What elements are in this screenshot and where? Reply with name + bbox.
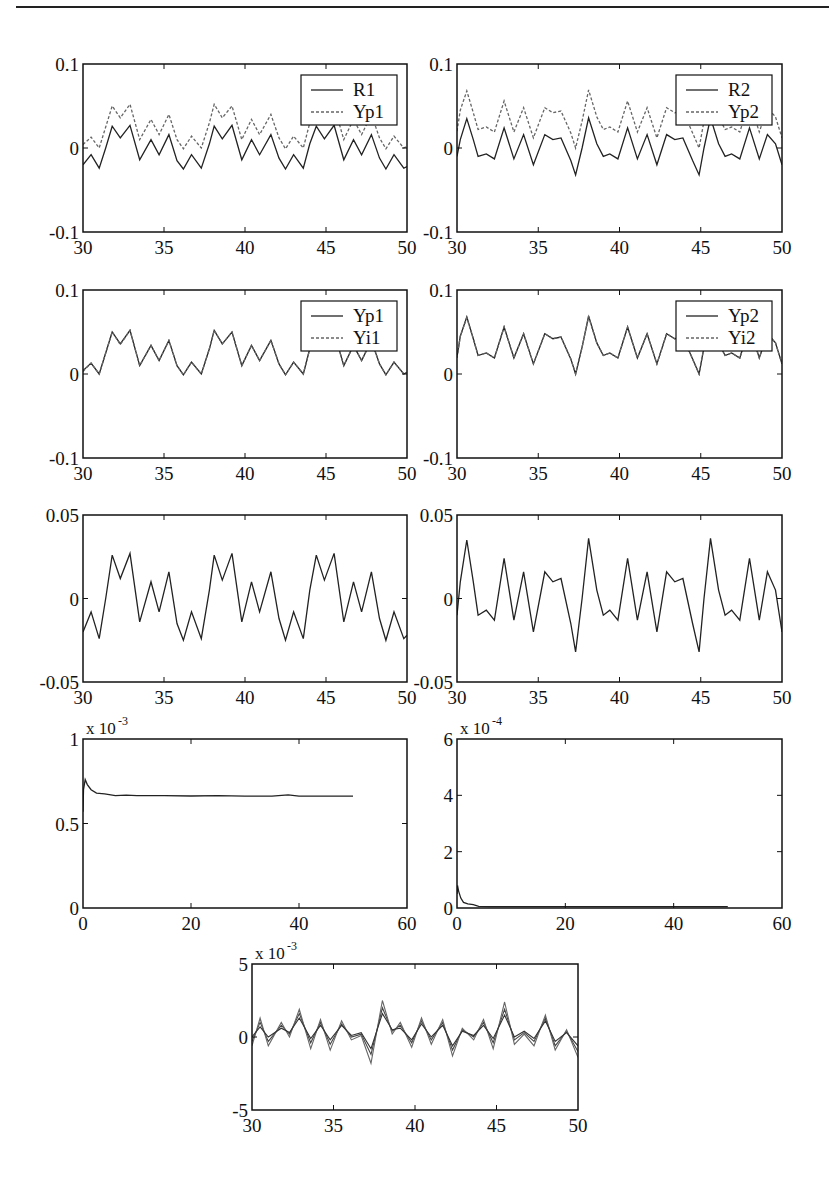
y-exponent-label: x 10 bbox=[460, 719, 490, 738]
x-tick-label: 35 bbox=[324, 1115, 343, 1136]
panel-7: 020406010.50x 10-3 bbox=[55, 714, 416, 934]
y-tick-label: 5 bbox=[239, 954, 249, 975]
y-tick-label: -0.05 bbox=[39, 672, 79, 693]
x-tick-label: 35 bbox=[529, 237, 548, 258]
x-tick-label: 50 bbox=[773, 463, 792, 484]
x-tick-label: 50 bbox=[773, 237, 792, 258]
x-tick-label: 40 bbox=[406, 1115, 425, 1136]
y-tick-label: 0 bbox=[444, 364, 454, 385]
x-tick-label: 60 bbox=[398, 913, 417, 934]
x-tick-label: 45 bbox=[487, 1115, 506, 1136]
series-line-cost2 bbox=[457, 886, 728, 907]
legend: Yp1Yi1 bbox=[301, 301, 397, 351]
x-tick-label: 40 bbox=[236, 237, 255, 258]
series-line-w_b bbox=[252, 1001, 578, 1064]
y-tick-label: -0.05 bbox=[413, 672, 453, 693]
plot-lines bbox=[83, 553, 407, 640]
legend: R1Yp1 bbox=[301, 75, 397, 125]
legend-label: Yi2 bbox=[728, 327, 755, 348]
series-line-e2 bbox=[457, 538, 782, 652]
y-tick-label: 0 bbox=[70, 589, 80, 610]
x-tick-label: 45 bbox=[691, 237, 710, 258]
x-tick-label: 35 bbox=[155, 463, 174, 484]
plot-lines bbox=[83, 780, 353, 812]
y-tick-label: 0.1 bbox=[429, 54, 453, 75]
panel-8: 02040606420x 10-4 bbox=[444, 714, 792, 934]
x-tick-label: 40 bbox=[290, 913, 309, 934]
axes-frame bbox=[457, 739, 782, 908]
y-tick-label: 0.1 bbox=[429, 280, 453, 301]
y-tick-label: 0 bbox=[70, 898, 80, 919]
x-tick-label: 50 bbox=[569, 1115, 588, 1136]
y-exponent-label: x 10 bbox=[255, 944, 285, 963]
y-tick-label: 0.05 bbox=[420, 505, 453, 526]
figure-canvas: 30354045500.10-0.1R1Yp1 30354045500.10-0… bbox=[0, 0, 829, 1198]
y-tick-label: 0 bbox=[444, 898, 454, 919]
y-tick-label: 0 bbox=[444, 138, 454, 159]
y-tick-label: 0 bbox=[239, 1027, 249, 1048]
plot-lines bbox=[457, 538, 782, 652]
y-tick-label: 0.1 bbox=[55, 280, 79, 301]
y-tick-label: 4 bbox=[444, 785, 454, 806]
y-exponent-power: -3 bbox=[287, 939, 297, 953]
legend-label: Yp2 bbox=[728, 305, 759, 326]
panel-4: 30354045500.10-0.1Yp2Yi2 bbox=[423, 280, 792, 484]
legend: R2Yp2 bbox=[676, 75, 772, 125]
y-exponent-power: -4 bbox=[492, 714, 502, 728]
series-line-e1 bbox=[83, 553, 407, 640]
x-tick-label: 45 bbox=[317, 237, 336, 258]
x-tick-label: 40 bbox=[610, 237, 629, 258]
plot-lines bbox=[252, 1001, 578, 1064]
y-tick-label: -5 bbox=[232, 1100, 248, 1121]
legend-label: Yp1 bbox=[353, 305, 384, 326]
x-tick-label: 45 bbox=[691, 463, 710, 484]
x-tick-label: 35 bbox=[155, 237, 174, 258]
x-tick-label: 50 bbox=[398, 237, 417, 258]
x-tick-label: 35 bbox=[155, 687, 174, 708]
x-tick-label: 20 bbox=[556, 913, 575, 934]
legend-label: R2 bbox=[728, 79, 750, 100]
panel-5: 30354045500.050-0.05 bbox=[39, 505, 416, 708]
x-tick-label: 0 bbox=[78, 913, 88, 934]
y-tick-label: -0.1 bbox=[423, 222, 453, 243]
x-tick-label: 35 bbox=[529, 463, 548, 484]
panel-3: 30354045500.10-0.1Yp1Yi1 bbox=[49, 280, 417, 484]
y-tick-label: -0.1 bbox=[423, 448, 453, 469]
y-tick-label: 0 bbox=[444, 589, 454, 610]
legend-label: Yp1 bbox=[353, 101, 384, 122]
x-tick-label: 40 bbox=[664, 913, 683, 934]
axes-frame bbox=[83, 739, 407, 908]
panel-2: 30354045500.10-0.1R2Yp2 bbox=[423, 54, 792, 258]
y-tick-label: 0.1 bbox=[55, 54, 79, 75]
axes-frame bbox=[457, 515, 782, 682]
y-exponent-label: x 10 bbox=[86, 719, 116, 738]
legend-label: Yi1 bbox=[353, 327, 380, 348]
x-tick-label: 45 bbox=[317, 687, 336, 708]
x-tick-label: 40 bbox=[610, 463, 629, 484]
x-tick-label: 45 bbox=[317, 463, 336, 484]
x-tick-label: 20 bbox=[182, 913, 201, 934]
x-tick-label: 40 bbox=[236, 687, 255, 708]
legend-label: Yp2 bbox=[728, 101, 759, 122]
panel-6: 30354045500.050-0.05 bbox=[413, 505, 791, 708]
x-tick-label: 0 bbox=[452, 913, 462, 934]
series-line-cost1 bbox=[83, 780, 353, 812]
panel-1: 30354045500.10-0.1R1Yp1 bbox=[49, 54, 417, 258]
plot-lines bbox=[457, 886, 728, 907]
x-tick-label: 40 bbox=[236, 463, 255, 484]
y-tick-label: -0.1 bbox=[49, 448, 79, 469]
y-tick-label: 6 bbox=[444, 729, 454, 750]
x-tick-label: 50 bbox=[398, 463, 417, 484]
x-tick-label: 60 bbox=[773, 913, 792, 934]
y-exponent-power: -3 bbox=[118, 714, 128, 728]
y-tick-label: 2 bbox=[444, 842, 454, 863]
y-tick-label: 0.5 bbox=[55, 814, 79, 835]
y-tick-label: 0 bbox=[70, 138, 80, 159]
x-tick-label: 35 bbox=[529, 687, 548, 708]
y-tick-label: 1 bbox=[70, 729, 80, 750]
y-tick-label: -0.1 bbox=[49, 222, 79, 243]
x-tick-label: 45 bbox=[691, 687, 710, 708]
x-tick-label: 40 bbox=[610, 687, 629, 708]
x-tick-label: 50 bbox=[773, 687, 792, 708]
legend-label: R1 bbox=[353, 79, 375, 100]
